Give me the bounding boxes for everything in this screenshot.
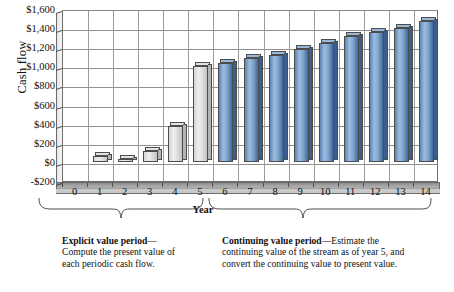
bar-year-1 [93, 156, 108, 162]
brace-continuing-value-period [209, 198, 431, 218]
bar-side-face [434, 19, 438, 159]
gridline-vertical [138, 11, 139, 181]
bar-face [218, 63, 233, 162]
bar-year-10 [319, 43, 334, 161]
bar-side-face [284, 53, 288, 160]
y-axis-tick-label: $1,200 [9, 43, 55, 53]
y-axis-tick-label: $400 [9, 120, 55, 130]
gridline-vertical [188, 11, 189, 181]
bar-year-12 [369, 32, 384, 162]
gridline-vertical [414, 11, 415, 181]
caption-continuing-value-period: Continuing value period—Estimate the con… [222, 235, 448, 269]
bar-side-face [359, 34, 363, 160]
x-axis-tick-mark [388, 183, 389, 187]
x-axis-tick-mark [263, 183, 264, 187]
bar-side-face [409, 26, 413, 160]
caption-explicit-value-period: Explicit value period— Compute the prese… [62, 235, 212, 269]
gridline-vertical [364, 11, 365, 181]
x-axis-tick-mark [363, 183, 364, 187]
bar-face [369, 32, 384, 162]
bar-year-9 [294, 49, 309, 162]
x-axis-tick-mark [87, 183, 88, 187]
gridline-vertical [314, 11, 315, 181]
gridline-vertical [339, 11, 340, 181]
y-axis-tick-label: $1,000 [9, 62, 55, 72]
y-axis-tick-label: $0 [9, 158, 55, 168]
bar-side-face [334, 41, 338, 159]
bar-side-face [233, 61, 237, 160]
y-axis-tick-label: $200 [9, 139, 55, 149]
bar-side-face [158, 149, 162, 160]
bar-side-face [183, 124, 187, 160]
bar-side-face [108, 154, 112, 160]
gridline-vertical [213, 11, 214, 181]
bar-face [419, 21, 434, 161]
bar-side-face [133, 157, 137, 160]
chart-figure: Cash flow $1,600$1,400$1,200$1,000$800$6… [0, 0, 454, 292]
caption-continuing-line1: continuing value of the stream as of yea… [222, 246, 404, 257]
gridline-vertical [389, 11, 390, 181]
bar-year-5 [193, 66, 208, 162]
gridline-vertical [289, 11, 290, 181]
bar-face [244, 58, 259, 162]
annotation-braces [0, 196, 454, 236]
bar-face [118, 159, 133, 162]
bar-year-7 [244, 58, 259, 162]
x-axis-tick-mark [137, 183, 138, 187]
y-axis-tick-label: $600 [9, 101, 55, 111]
x-axis-tick-mark [212, 183, 213, 187]
y-axis-tick-label: $1,600 [9, 5, 55, 15]
caption-explicit-title: Explicit value period— [62, 235, 157, 246]
bar-face [269, 55, 284, 162]
y-axis-tick-labels: $1,600$1,400$1,200$1,000$800$600$400$200… [9, 0, 55, 200]
caption-continuing-title: Continuing value period— [222, 235, 331, 246]
x-axis-tick-mark [288, 183, 289, 187]
y-axis-tick-label: $800 [9, 81, 55, 91]
bar-face [294, 49, 309, 162]
caption-continuing-title-tail: Estimate the [331, 235, 379, 246]
bar-face [168, 126, 183, 162]
gridline-vertical [163, 11, 164, 181]
x-axis-tick-mark [413, 183, 414, 187]
x-axis-tick-mark [338, 183, 339, 187]
bar-face [143, 151, 158, 162]
bar-year-3 [143, 151, 158, 162]
caption-explicit-line2: each periodic cash flow. [62, 258, 155, 269]
gridline-vertical [264, 11, 265, 181]
x-axis-tick-mark [62, 183, 63, 187]
x-axis-tick-mark [162, 183, 163, 187]
bar-side-face [208, 64, 212, 160]
gridline-vertical [88, 11, 89, 181]
caption-continuing-line2: convert the continuing value to present … [222, 258, 397, 269]
bar-face [394, 28, 409, 162]
plot-area [62, 10, 438, 182]
bar-side-face [309, 47, 313, 160]
x-axis-tick-mark [187, 183, 188, 187]
gridline-horizontal [63, 164, 437, 165]
x-axis-tick-mark [313, 183, 314, 187]
x-axis-tick-mark [237, 183, 238, 187]
bar-face [344, 36, 359, 162]
bar-year-11 [344, 36, 359, 162]
bar-face [93, 156, 108, 162]
bar-year-8 [269, 55, 284, 162]
y-axis-tick-label: $1,400 [9, 24, 55, 34]
bar-face [319, 43, 334, 161]
bar-side-face [259, 56, 263, 160]
gridline-vertical [113, 11, 114, 181]
bar-year-6 [218, 63, 233, 162]
brace-explicit-value-period [39, 198, 203, 218]
bar-year-13 [394, 28, 409, 162]
bar-year-14 [419, 21, 434, 161]
bar-year-2 [118, 159, 133, 162]
caption-explicit-line1: Compute the present value of [62, 246, 175, 257]
bar-face [193, 66, 208, 162]
x-axis-tick-mark [112, 183, 113, 187]
bar-side-face [384, 30, 388, 160]
gridline-vertical [238, 11, 239, 181]
bar-year-4 [168, 126, 183, 162]
